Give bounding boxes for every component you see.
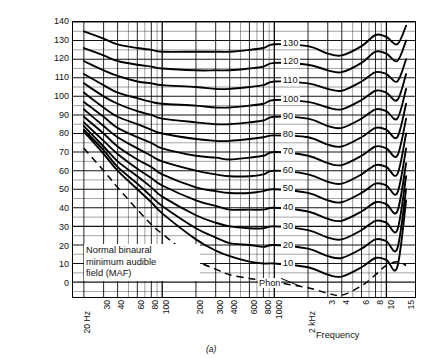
phon-curve-label: 70 [281, 147, 294, 156]
x-axis-tick-label: 40 [117, 300, 126, 310]
x-axis-tick-label: 80 [151, 300, 160, 310]
y-axis-tick-label: 40 [59, 204, 69, 213]
x-axis-tick-label: 1000 [274, 300, 283, 319]
y-axis-tick-label: 50 [59, 185, 69, 194]
phon-curve-label: 80 [281, 131, 294, 140]
maf-annotation-line3: field (MAF) [86, 268, 198, 280]
x-axis-tick-label: 300 [215, 300, 224, 314]
y-axis-tick-label: 70 [59, 148, 69, 157]
y-axis-tick-label: 10 [59, 260, 69, 269]
x-axis-tick-label: 20 Hz [83, 311, 92, 333]
phon-unit-label: Phon [258, 278, 281, 288]
y-axis-tick-label: 0 [64, 279, 69, 288]
x-axis-tick-label: 800 [263, 300, 272, 314]
phon-curve-label: 30 [281, 222, 294, 231]
phon-curve-label: 90 [281, 112, 294, 121]
x-axis-tick-label: 4 [342, 300, 351, 305]
phon-curve-label: 20 [281, 241, 294, 250]
y-axis-tick-label: 30 [59, 222, 69, 231]
y-axis-tick-label: 90 [59, 110, 69, 119]
x-axis-tick-label: 30 [103, 300, 112, 310]
y-axis-tick-label: 130 [54, 35, 69, 44]
phon-curve-label: 100 [281, 95, 300, 104]
x-axis-title: Frequency [316, 330, 359, 340]
x-axis-tick-label: 3 [328, 300, 337, 305]
y-axis-tick-label: 60 [59, 166, 69, 175]
y-axis-tick-label: 100 [54, 91, 69, 100]
maf-annotation: Normal binaural minimum audible field (M… [84, 244, 200, 281]
x-axis-tick-label: 6 [362, 300, 371, 305]
phon-curve-label: 120 [281, 58, 300, 67]
phon-curve-label: 50 [281, 185, 294, 194]
phon-curve-label: 10 [281, 260, 294, 269]
x-axis-tick-label: 60 [136, 300, 145, 310]
x-axis-tick-label: 100 [161, 300, 170, 314]
figure-caption: (a) [206, 344, 216, 354]
maf-annotation-line2: minimum audible [86, 257, 198, 269]
y-axis-tick-label: 80 [59, 129, 69, 138]
y-axis-tick-label: 140 [54, 17, 69, 26]
equal-loudness-contour-figure: Sound pressure level (expressed in decib… [0, 0, 438, 358]
x-axis-tick-label: 10 [387, 300, 396, 310]
x-axis-tick-label: 600 [249, 300, 258, 314]
x-axis-tick-label: 15 [407, 300, 416, 310]
y-axis-tick-label: 120 [54, 54, 69, 63]
phon-curve-label: 40 [281, 204, 294, 213]
y-axis-tick-label: 20 [59, 241, 69, 250]
maf-annotation-line1: Normal binaural [86, 245, 198, 257]
x-axis-tick-label: 400 [229, 300, 238, 314]
x-axis-tick-labels: 20 Hz3040608010020030040060080010002 kHz… [72, 300, 416, 344]
x-axis-tick-label: 200 [195, 300, 204, 314]
x-axis-tick-label: 8 [376, 300, 385, 305]
phon-curve-label: 110 [281, 76, 299, 85]
y-axis-tick-labels: 0102030405060708090100110120130140 [44, 21, 69, 298]
y-axis-title: Sound pressure level (expressed in decib… [0, 0, 40, 300]
phon-curve-label: 60 [281, 166, 294, 175]
phon-curve-label: 130 [281, 39, 300, 48]
y-axis-tick-label: 110 [55, 73, 69, 82]
